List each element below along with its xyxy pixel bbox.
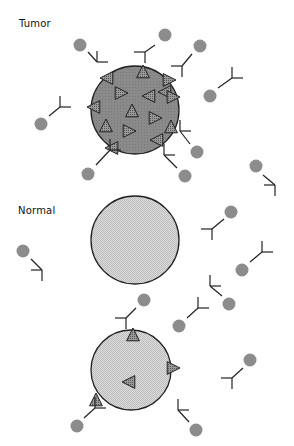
antigen-triangle-icon [167,362,180,375]
toxin-ball-icon [191,146,204,159]
toxin-ball-icon [194,40,207,53]
antibody-icon [171,40,207,78]
toxin-ball-icon [74,39,87,52]
normal-cell [91,330,171,410]
antibody-icon [115,294,151,330]
toxin-ball-icon [159,29,172,42]
cells [91,66,179,410]
antibody-icon [221,354,257,390]
toxin-ball-icon [179,170,192,183]
toxin-ball-icon [225,206,238,219]
antibody-icon [180,120,204,159]
toxin-ball-icon [82,168,95,181]
antibody-icon [210,275,236,311]
antibody-icon [178,399,203,437]
antibody-icon [201,206,238,241]
toxin-ball-icon [190,424,203,437]
toxin-ball-icon [173,320,186,333]
antibody-icon [250,160,276,197]
antibody-icon [164,144,192,183]
antibody-icon [173,297,210,333]
antibody-icon [74,39,109,63]
toxin-ball-icon [204,90,217,103]
toxin-ball-icon [35,118,48,131]
toxin-ball-icon [138,294,151,307]
antibody-diagram [0,0,294,446]
toxin-ball-icon [244,354,257,367]
toxin-ball-icon [250,160,263,173]
toxin-ball-icon [71,420,84,433]
toxin-ball-icon [223,298,236,311]
antibody-icon [134,29,172,64]
antibody-icon [35,96,72,131]
toxin-ball-icon [17,245,30,258]
antibody-icon [17,245,43,282]
toxin-ball-icon [236,264,249,277]
antibody-icon [204,67,244,103]
antibody-icon [236,241,274,277]
normal-cell [91,196,179,284]
